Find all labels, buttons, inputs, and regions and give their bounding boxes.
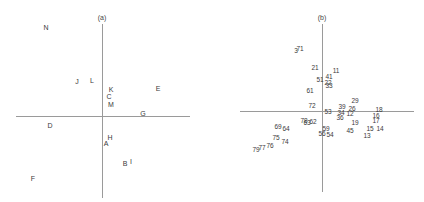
point-label: C	[106, 93, 111, 100]
point-label: 56	[318, 130, 325, 137]
y-axis-line	[322, 24, 323, 192]
point-label: G	[140, 110, 145, 117]
panel-title-b: (b)	[318, 14, 327, 21]
point-label: 29	[351, 97, 358, 104]
point-label: N	[43, 24, 48, 31]
point-label: 72	[308, 102, 315, 109]
point-label: 61	[306, 87, 313, 94]
point-label: B	[123, 160, 128, 167]
point-label: 71	[296, 45, 303, 52]
point-label: F	[31, 175, 35, 182]
point-label: M	[108, 101, 114, 108]
point-label: D	[47, 122, 52, 129]
point-label: 14	[376, 125, 383, 132]
point-label: 53	[324, 108, 331, 115]
point-label: 64	[282, 125, 289, 132]
point-label: 11	[333, 67, 340, 74]
point-label: 21	[311, 64, 318, 71]
point-label: 79	[252, 146, 259, 153]
x-axis-line	[16, 116, 190, 117]
point-label: J	[75, 78, 79, 85]
point-label: I	[130, 158, 132, 165]
point-label: 19	[351, 119, 358, 126]
point-label: 76	[266, 142, 273, 149]
point-label: 15	[366, 125, 373, 132]
point-label: 12	[346, 110, 353, 117]
point-label: K	[109, 86, 114, 93]
point-label: 45	[346, 127, 353, 134]
point-label: 54	[326, 131, 333, 138]
scatter-panel-a: (a) NJLKECMGDHABIF	[0, 0, 212, 202]
point-label: 69	[274, 123, 281, 130]
point-label: 13	[363, 132, 370, 139]
point-label: 33	[325, 82, 332, 89]
point-label: 36	[336, 114, 343, 121]
point-label: A	[104, 140, 109, 147]
point-label: 62	[309, 118, 316, 125]
scatter-panel-b: (b) 371211141512233612972392653341218163…	[212, 0, 424, 202]
point-label: 17	[372, 117, 379, 124]
panel-title-a: (a)	[98, 14, 107, 21]
point-label: 75	[272, 134, 279, 141]
point-label: 51	[316, 76, 323, 83]
point-label: 74	[281, 138, 288, 145]
point-label: E	[156, 85, 161, 92]
point-label: L	[90, 77, 94, 84]
y-axis-line	[102, 24, 103, 198]
